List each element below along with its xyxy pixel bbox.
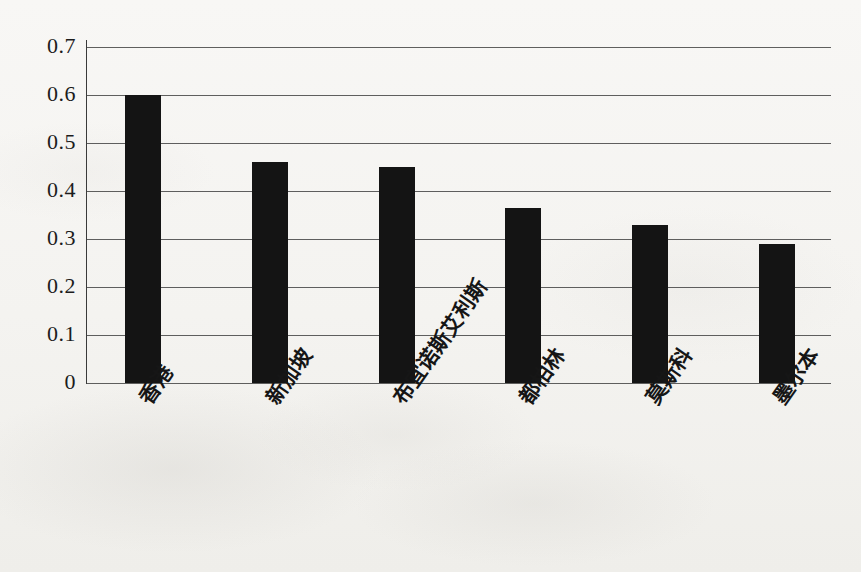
y-tick-label: 0.6 [14, 83, 76, 105]
bar[interactable] [632, 225, 668, 383]
y-axis-tick-labels: 0.70.60.50.40.30.20.10 [8, 0, 76, 572]
y-tick-label: 0 [14, 371, 76, 393]
bar[interactable] [505, 208, 541, 383]
gridline-0-2 [86, 287, 831, 288]
gridline-0-6 [86, 95, 831, 96]
bar[interactable] [759, 244, 795, 383]
bar[interactable] [379, 167, 415, 383]
y-tick-label: 0.7 [14, 35, 76, 57]
y-tick-label: 0.2 [14, 275, 76, 297]
y-tick-label: 0.1 [14, 323, 76, 345]
gridline-0-7 [86, 47, 831, 48]
y-tick-label: 0.3 [14, 227, 76, 249]
gridline-0-4 [86, 191, 831, 192]
bar[interactable] [125, 95, 161, 383]
chart-page: 0.70.60.50.40.30.20.10 香港新加坡布宜诺斯艾利斯都柏林莫斯… [0, 0, 861, 572]
y-tick-label: 0.5 [14, 131, 76, 153]
gridline-0 [86, 383, 831, 384]
y-tick-label: 0.4 [14, 179, 76, 201]
gridline-0-3 [86, 239, 831, 240]
bar[interactable] [252, 162, 288, 383]
gridline-0-5 [86, 143, 831, 144]
